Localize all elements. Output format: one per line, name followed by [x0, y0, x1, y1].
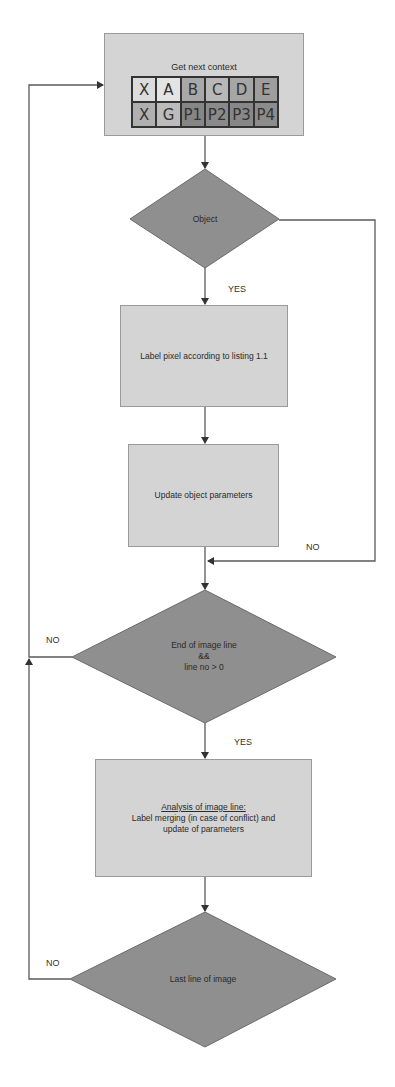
- analysis-body: Label merging (in case of conflict) and …: [129, 813, 279, 835]
- analysis-box: Analysis of image line: Label merging (i…: [95, 759, 312, 877]
- decision-last-line-text: Last line of image: [170, 974, 237, 985]
- edge-label-object-yes: YES: [228, 284, 246, 294]
- decision-end-line-text-1: End of image line: [171, 640, 237, 651]
- arrow-endline-no: [29, 85, 103, 657]
- get-next-context-title: Get next context: [104, 62, 304, 72]
- context-cell: C: [205, 77, 229, 102]
- context-cell: P2: [205, 102, 229, 127]
- decision-end-line-label: End of image line && line no > 0: [72, 590, 336, 723]
- analysis-heading: Analysis of image line:: [161, 802, 246, 813]
- decision-last-line-label: Last line of image: [70, 912, 336, 1047]
- edge-label-object-no: NO: [306, 542, 320, 552]
- decision-object-label: Object: [130, 169, 280, 269]
- context-cell: A: [156, 77, 180, 102]
- decision-object-text: Object: [193, 214, 218, 225]
- context-cell: B: [181, 77, 205, 102]
- edge-label-end-line-no: NO: [46, 635, 60, 645]
- update-parameters-text: Update object parameters: [155, 490, 253, 501]
- context-cell: P1: [181, 102, 205, 127]
- decision-end-line-text-3: line no > 0: [184, 662, 223, 673]
- label-pixel-box: Label pixel according to listing 1.1: [120, 305, 288, 407]
- label-pixel-text: Label pixel according to listing 1.1: [140, 351, 268, 362]
- edge-label-end-line-yes: YES: [234, 737, 252, 747]
- context-cell: P3: [229, 102, 253, 127]
- context-grid: X A B C D E X G P1 P2 P3 P4: [131, 76, 279, 128]
- context-cell: D: [229, 77, 253, 102]
- context-cell: P4: [254, 102, 278, 127]
- context-cell: E: [254, 77, 278, 102]
- context-cell: X: [132, 102, 156, 127]
- arrow-lastline-no: [29, 659, 70, 979]
- update-parameters-box: Update object parameters: [128, 444, 279, 547]
- context-cell: X: [132, 77, 156, 102]
- context-cell: G: [156, 102, 180, 127]
- decision-end-line-text-2: &&: [198, 651, 209, 662]
- edge-label-last-line-no: NO: [46, 958, 60, 968]
